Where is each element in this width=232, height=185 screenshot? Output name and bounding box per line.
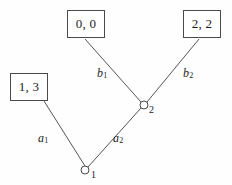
decision-node-2 xyxy=(140,101,148,109)
edge-label-b2: b2 xyxy=(183,66,193,81)
payoff-box-top: 0, 0 xyxy=(67,10,105,38)
edge-line-a1 xyxy=(44,101,85,166)
edge-label-a1-sub: 1 xyxy=(44,136,48,145)
edge-label-b1: b1 xyxy=(97,66,107,81)
edge-label-b1-sub: 1 xyxy=(103,71,107,80)
decision-node-1 xyxy=(81,166,89,174)
game-tree-figure: 1, 3 0, 0 2, 2 a1 a2 b1 b2 1 2 xyxy=(0,0,232,185)
edge-line-b1 xyxy=(85,39,141,102)
node-label-2: 2 xyxy=(149,104,154,115)
edge-label-b2-sub: 2 xyxy=(189,71,193,80)
edge-label-a2-sub: 2 xyxy=(119,136,123,145)
payoff-box-left: 1, 3 xyxy=(10,73,48,101)
payoff-box-top-label: 0, 0 xyxy=(76,16,97,32)
node-label-1: 1 xyxy=(91,169,96,180)
payoff-box-right-label: 2, 2 xyxy=(192,16,213,32)
edge-label-a2: a2 xyxy=(113,131,123,146)
payoff-box-left-label: 1, 3 xyxy=(19,79,40,95)
payoff-box-right: 2, 2 xyxy=(183,10,221,38)
edge-label-a1: a1 xyxy=(38,131,48,146)
